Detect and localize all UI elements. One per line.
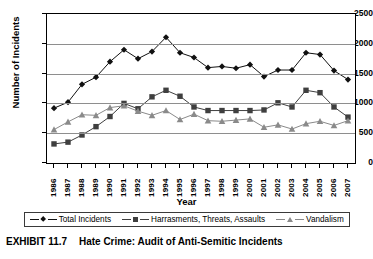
legend-line bbox=[140, 219, 149, 221]
series-layer bbox=[47, 14, 355, 163]
x-tick-label: 2007 bbox=[343, 169, 352, 197]
legend-item-3[interactable]: Vandalism bbox=[276, 215, 344, 224]
x-tick bbox=[235, 164, 236, 168]
data-point bbox=[233, 108, 238, 113]
x-tick bbox=[179, 164, 180, 168]
data-point bbox=[191, 111, 198, 117]
x-tick-label: 2002 bbox=[273, 169, 282, 197]
x-tick bbox=[137, 164, 138, 168]
data-point bbox=[345, 76, 351, 82]
x-axis-title: Year bbox=[0, 196, 373, 207]
legend-line bbox=[295, 219, 304, 221]
x-tick-label: 1987 bbox=[63, 169, 72, 197]
y-axis-title: Number of Incidents bbox=[10, 1, 21, 125]
x-tick bbox=[333, 164, 334, 168]
x-tick bbox=[95, 164, 96, 168]
x-tick bbox=[263, 164, 264, 168]
x-tick-label: 1990 bbox=[105, 169, 114, 197]
x-tick bbox=[81, 164, 82, 168]
data-point bbox=[51, 141, 56, 146]
chart-legend: Total IncidentsHarrasments, Threats, Ass… bbox=[24, 212, 350, 227]
legend-item-1[interactable]: Total Incidents bbox=[30, 215, 111, 224]
x-tick-label: 2000 bbox=[245, 169, 254, 197]
data-point bbox=[331, 104, 336, 109]
x-tick bbox=[249, 164, 250, 168]
gridline bbox=[47, 74, 355, 75]
data-point bbox=[261, 107, 266, 112]
data-point bbox=[275, 122, 282, 128]
data-point bbox=[289, 104, 294, 109]
x-tick-label: 1991 bbox=[119, 169, 128, 197]
legend-label: Total Incidents bbox=[59, 215, 111, 224]
data-point bbox=[177, 94, 182, 99]
diamond-marker-icon bbox=[40, 216, 46, 222]
x-tick-label: 2001 bbox=[259, 169, 268, 197]
data-point bbox=[275, 67, 281, 73]
legend-line bbox=[276, 219, 285, 221]
x-tick bbox=[165, 164, 166, 168]
legend-line bbox=[30, 219, 39, 221]
legend-label: Vandalism bbox=[306, 215, 344, 224]
x-tick-label: 1999 bbox=[231, 169, 240, 197]
data-point bbox=[65, 119, 72, 125]
x-tick bbox=[151, 164, 152, 168]
x-tick bbox=[305, 164, 306, 168]
data-point bbox=[93, 124, 98, 129]
data-point bbox=[191, 104, 196, 109]
data-point bbox=[317, 90, 322, 95]
x-tick bbox=[347, 164, 348, 168]
data-point bbox=[247, 108, 252, 113]
data-point bbox=[51, 126, 58, 132]
x-tick-label: 1992 bbox=[133, 169, 142, 197]
data-point bbox=[205, 108, 210, 113]
x-tick bbox=[207, 164, 208, 168]
x-tick-label: 1998 bbox=[217, 169, 226, 197]
x-tick-label: 1989 bbox=[91, 169, 100, 197]
exhibit-figure: Number of Incidents 05001000150020002500… bbox=[0, 0, 373, 259]
x-tick-label: 1996 bbox=[189, 169, 198, 197]
data-point bbox=[163, 88, 168, 93]
caption-text: Hate Crime: Audit of Anti-Semitic Incide… bbox=[79, 236, 283, 247]
legend-line bbox=[48, 219, 57, 221]
x-tick-label: 2006 bbox=[329, 169, 338, 197]
x-tick bbox=[319, 164, 320, 168]
legend-item-2[interactable]: Harrasments, Threats, Assaults bbox=[122, 215, 265, 224]
data-point bbox=[219, 108, 224, 113]
x-tick-label: 1986 bbox=[49, 169, 58, 197]
x-tick-label: 1993 bbox=[147, 169, 156, 197]
data-point bbox=[135, 56, 141, 62]
data-point bbox=[233, 65, 239, 71]
data-point bbox=[177, 116, 184, 122]
x-tick-label: 1994 bbox=[161, 169, 170, 197]
data-point bbox=[219, 63, 225, 69]
x-tick bbox=[291, 164, 292, 168]
plot-area bbox=[46, 13, 356, 164]
data-point bbox=[65, 139, 70, 144]
x-tick-label: 2005 bbox=[315, 169, 324, 197]
x-tick-label: 1988 bbox=[77, 169, 86, 197]
data-point bbox=[107, 114, 112, 119]
line-chart: Number of Incidents 05001000150020002500… bbox=[0, 0, 373, 196]
caption-number: EXHIBIT 11.7 bbox=[6, 236, 67, 247]
x-tick bbox=[221, 164, 222, 168]
legend-label: Harrasments, Threats, Assaults bbox=[151, 215, 265, 224]
gridline bbox=[47, 44, 355, 45]
x-tick bbox=[67, 164, 68, 168]
x-tick-label: 1995 bbox=[175, 169, 184, 197]
data-point bbox=[149, 94, 154, 99]
gridline bbox=[47, 103, 355, 104]
x-tick-label: 2004 bbox=[301, 169, 310, 197]
figure-caption: EXHIBIT 11.7 Hate Crime: Audit of Anti-S… bbox=[6, 236, 369, 247]
x-tick bbox=[53, 164, 54, 168]
x-tick-label: 1997 bbox=[203, 169, 212, 197]
x-tick bbox=[193, 164, 194, 168]
x-tick bbox=[109, 164, 110, 168]
x-tick-label: 2003 bbox=[287, 169, 296, 197]
gridline bbox=[47, 133, 355, 134]
square-marker-icon bbox=[133, 217, 138, 222]
data-point bbox=[303, 88, 308, 93]
x-tick bbox=[123, 164, 124, 168]
legend-line bbox=[122, 219, 131, 221]
data-point bbox=[317, 118, 324, 124]
x-tick bbox=[277, 164, 278, 168]
